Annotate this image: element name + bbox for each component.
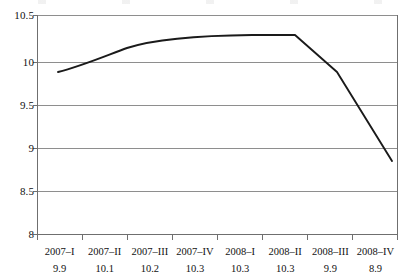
plot-area xyxy=(0,0,419,280)
y-tick-label: 10 xyxy=(2,57,34,68)
x-axis-data-values: 9.9 10.1 10.2 10.3 10.3 10.3 9.9 8.9 xyxy=(37,262,398,275)
y-tick-label: 10.5 xyxy=(2,10,34,21)
x-category-label: 2008–II xyxy=(263,245,308,258)
x-axis-category-labels: 2007–I 2007–II 2007–III 2007–IV 2008–I 2… xyxy=(37,245,398,258)
y-tick-label: 8 xyxy=(2,229,34,240)
x-tick-marks xyxy=(38,235,398,241)
data-value-label: 8.9 xyxy=(353,262,398,275)
x-category-label: 2007–II xyxy=(82,245,127,258)
data-value-label: 9.9 xyxy=(308,262,353,275)
y-axis-labels: 10.5 10 9.5 9 8.5 8 xyxy=(0,0,34,250)
x-category-label: 2008–IV xyxy=(353,245,398,258)
x-category-label: 2008–I xyxy=(218,245,263,258)
data-value-label: 9.9 xyxy=(37,262,82,275)
data-value-label: 10.3 xyxy=(172,262,217,275)
data-value-label: 10.1 xyxy=(82,262,127,275)
line-chart: 10.5 10 9.5 9 8.5 8 2007–I 2007–II 2007–… xyxy=(0,0,419,280)
x-category-label: 2007–IV xyxy=(172,245,217,258)
data-value-label: 10.3 xyxy=(263,262,308,275)
axis-frame xyxy=(37,15,398,235)
series-line-series-1 xyxy=(58,35,392,161)
x-category-label: 2007–I xyxy=(37,245,82,258)
x-category-label: 2007–III xyxy=(127,245,172,258)
data-value-label: 10.2 xyxy=(127,262,172,275)
gridlines xyxy=(37,16,398,192)
y-tick-label: 9 xyxy=(2,143,34,154)
data-value-label: 10.3 xyxy=(218,262,263,275)
x-category-label: 2008–III xyxy=(308,245,353,258)
y-tick-label: 8.5 xyxy=(2,186,34,197)
y-tick-label: 9.5 xyxy=(2,100,34,111)
